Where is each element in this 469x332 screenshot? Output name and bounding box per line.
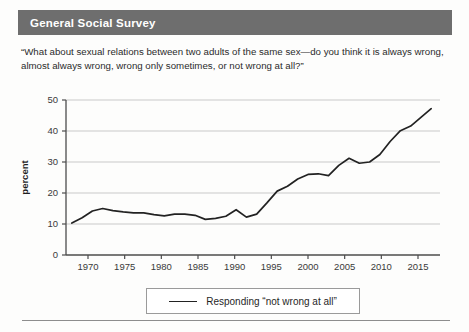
figure-container: General Social Survey “What about sexual… — [0, 0, 469, 332]
y-axis-title: percent — [19, 160, 30, 195]
y-axis-tick-label: 0 — [53, 249, 58, 260]
chart-svg: 01020304050 1970197519801985199019952000… — [0, 84, 469, 274]
legend-label: Responding “not wrong at all” — [206, 296, 337, 307]
legend-line-swatch — [169, 301, 197, 302]
line-chart: 01020304050 1970197519801985199019952000… — [0, 84, 469, 274]
y-axis-tick-label: 50 — [47, 94, 58, 105]
y-axis-ticks-group: 01020304050 — [47, 94, 66, 260]
y-axis-tick-label: 10 — [47, 218, 58, 229]
data-series-line — [72, 109, 431, 223]
chart-legend: Responding “not wrong at all” — [146, 288, 360, 314]
x-axis-tick-label: 1980 — [151, 261, 172, 272]
x-axis-tick-label: 1975 — [114, 261, 135, 272]
x-axis-tick-label: 1995 — [261, 261, 282, 272]
gridlines-group — [66, 100, 440, 224]
y-axis-tick-label: 40 — [47, 125, 58, 136]
x-axis-tick-label: 2015 — [407, 261, 428, 272]
x-axis-tick-label: 2010 — [371, 261, 392, 272]
x-axis-tick-label: 1985 — [187, 261, 208, 272]
page-title: General Social Survey — [18, 17, 156, 29]
bottom-divider — [22, 320, 450, 321]
y-axis-tick-label: 20 — [47, 187, 58, 198]
y-axis-tick-label: 30 — [47, 156, 58, 167]
chart-header-band: General Social Survey — [18, 10, 452, 35]
survey-question-text: “What about sexual relations between two… — [21, 45, 449, 72]
x-axis-tick-label: 1990 — [224, 261, 245, 272]
x-axis-tick-label: 1970 — [77, 261, 98, 272]
x-axis-ticks-group: 1970197519801985199019952000200520102015 — [77, 255, 428, 272]
x-axis-tick-label: 2000 — [297, 261, 318, 272]
x-axis-tick-label: 2005 — [334, 261, 355, 272]
